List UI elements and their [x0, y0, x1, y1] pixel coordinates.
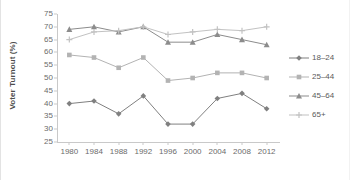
x-tick-label: 2012 — [258, 148, 276, 156]
x-tick-mark — [118, 142, 119, 145]
x-tick-label: 1984 — [85, 148, 103, 156]
data-point-marker — [91, 98, 97, 104]
legend-item-4[interactable]: 65+ — [289, 105, 349, 124]
data-point-marker — [165, 31, 171, 37]
legend-item-2[interactable]: 25–44 — [289, 67, 349, 86]
y-tick-mark — [54, 129, 57, 130]
series-line — [69, 27, 266, 45]
y-tick-mark — [54, 14, 57, 15]
data-point-marker — [165, 121, 171, 127]
y-tick-mark — [54, 52, 57, 53]
series-2 — [67, 53, 269, 83]
data-point-marker — [240, 71, 245, 76]
data-point-marker — [165, 39, 171, 45]
y-tick-label: 70 — [29, 23, 53, 31]
y-tick-label: 60 — [29, 48, 53, 56]
y-tick-mark — [54, 142, 57, 143]
data-point-marker — [264, 106, 270, 112]
data-point-marker — [190, 121, 196, 127]
x-tick-label: 1980 — [60, 148, 78, 156]
data-point-marker — [239, 28, 245, 34]
y-tick-label: 30 — [29, 125, 53, 133]
data-point-marker — [116, 111, 122, 117]
x-axis-tick-labels: 198019841988199219962000200420082012 — [57, 146, 280, 160]
x-tick-mark — [69, 142, 70, 145]
legend-label: 65+ — [312, 111, 326, 119]
x-tick-mark — [168, 142, 169, 145]
x-tick-mark — [143, 142, 144, 145]
data-point-marker — [166, 78, 171, 83]
x-tick-label: 1996 — [159, 148, 177, 156]
y-tick-label: 35 — [29, 112, 53, 120]
x-tick-label: 2008 — [233, 148, 251, 156]
y-tick-mark — [54, 65, 57, 66]
data-point-marker — [141, 55, 146, 60]
series-4 — [66, 24, 269, 43]
y-tick-label: 40 — [29, 100, 53, 108]
series-3 — [66, 24, 269, 47]
data-point-marker — [264, 76, 269, 81]
data-point-marker — [116, 65, 121, 70]
legend-marker-icon — [289, 110, 309, 120]
y-axis-title: Voter Turnout (%) — [3, 0, 21, 150]
data-point-marker — [190, 76, 195, 81]
x-tick-label: 2000 — [184, 148, 202, 156]
y-tick-label: 65 — [29, 36, 53, 44]
data-point-marker — [66, 37, 72, 43]
data-point-marker — [66, 26, 72, 32]
x-tick-mark — [94, 142, 95, 145]
data-point-marker — [67, 101, 73, 107]
legend-marker-icon — [289, 53, 309, 63]
data-point-marker — [190, 29, 196, 35]
y-tick-mark — [54, 116, 57, 117]
data-point-marker — [214, 26, 220, 32]
legend-label: 45–64 — [312, 92, 334, 100]
series-1 — [67, 91, 270, 127]
x-tick-label: 1992 — [134, 148, 152, 156]
legend-marker-icon — [289, 72, 309, 82]
y-tick-label: 25 — [29, 138, 53, 146]
legend-label: 18–24 — [312, 54, 334, 62]
data-point-marker — [67, 53, 72, 58]
data-point-marker — [141, 93, 147, 99]
y-tick-mark — [54, 78, 57, 79]
legend-item-1[interactable]: 18–24 — [289, 48, 349, 67]
data-point-marker — [92, 55, 97, 60]
data-point-marker — [215, 71, 220, 76]
data-point-marker — [264, 42, 270, 48]
legend-marker-icon — [289, 91, 309, 101]
series-line — [69, 93, 266, 124]
voter-turnout-line-chart: Voter Turnout (%) 2530354045505560657075… — [0, 0, 350, 180]
y-tick-label: 55 — [29, 61, 53, 69]
y-axis-title-label: Voter Turnout (%) — [8, 41, 17, 109]
data-point-marker — [215, 96, 221, 102]
y-axis-line — [57, 14, 58, 143]
y-axis-tick-labels: 2530354045505560657075 — [29, 14, 53, 142]
y-tick-mark — [54, 103, 57, 104]
chart-legend: 18–2425–4445–6465+ — [289, 48, 349, 124]
y-tick-label: 50 — [29, 74, 53, 82]
data-point-marker — [190, 39, 196, 45]
x-tick-label: 1988 — [110, 148, 128, 156]
x-tick-mark — [217, 142, 218, 145]
series-line — [69, 27, 266, 40]
series-line — [69, 55, 266, 81]
data-point-marker — [91, 24, 97, 30]
data-point-marker — [264, 24, 270, 30]
legend-item-3[interactable]: 45–64 — [289, 86, 349, 105]
data-point-marker — [239, 91, 245, 97]
x-tick-label: 2004 — [208, 148, 226, 156]
data-point-marker — [91, 29, 97, 35]
y-tick-label: 45 — [29, 87, 53, 95]
data-point-marker — [140, 24, 146, 30]
data-point-marker — [214, 31, 220, 37]
x-tick-mark — [192, 142, 193, 145]
y-tick-mark — [54, 39, 57, 40]
legend-label: 25–44 — [312, 73, 334, 81]
y-tick-mark — [54, 90, 57, 91]
data-point-marker — [239, 37, 245, 43]
data-point-marker — [140, 24, 146, 30]
x-tick-mark — [242, 142, 243, 145]
y-tick-mark — [54, 26, 57, 27]
data-point-marker — [116, 29, 122, 35]
